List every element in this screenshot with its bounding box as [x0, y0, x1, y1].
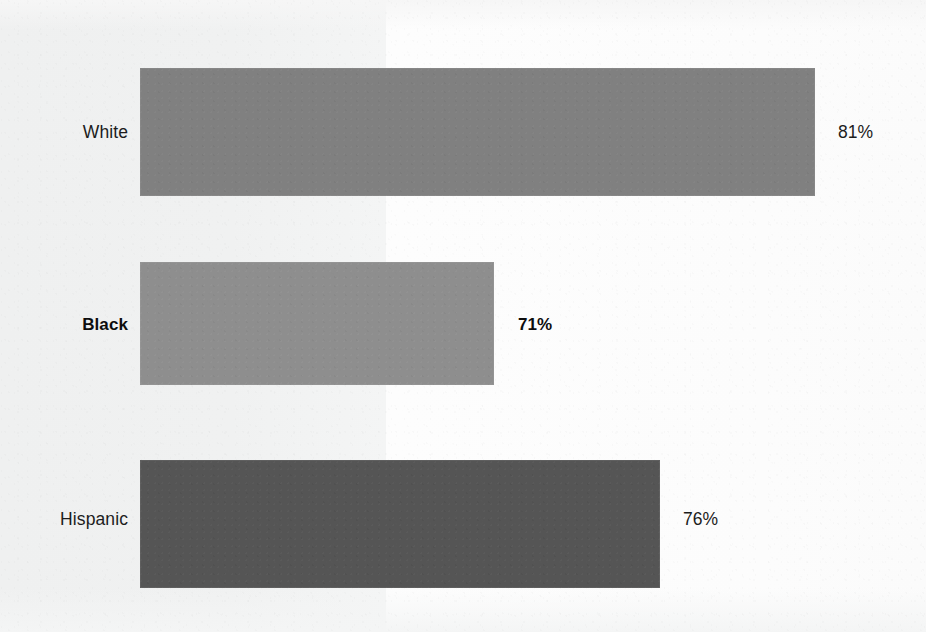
bar-black [140, 262, 494, 385]
category-label-white: White [83, 124, 128, 142]
bar-texture-black [140, 262, 494, 385]
bar-texture-hispanic [140, 460, 660, 588]
bar-row-hispanic: Hispanic 76% [0, 460, 926, 588]
bar-row-white: White 81% [0, 68, 926, 196]
category-label-black: Black [82, 316, 128, 333]
bar-white [140, 68, 815, 196]
bar-texture-white [140, 68, 815, 196]
value-label-black: 71% [518, 316, 552, 333]
bar-hispanic [140, 460, 660, 588]
chart-canvas: White 81% Black 71% Hispanic 76% [0, 0, 926, 632]
bar-row-black: Black 71% [0, 262, 926, 385]
category-label-hispanic: Hispanic [60, 511, 128, 529]
value-label-white: 81% [838, 124, 873, 142]
value-label-hispanic: 76% [683, 511, 718, 529]
bar-chart-plot-area: White 81% Black 71% Hispanic 76% [0, 0, 926, 632]
